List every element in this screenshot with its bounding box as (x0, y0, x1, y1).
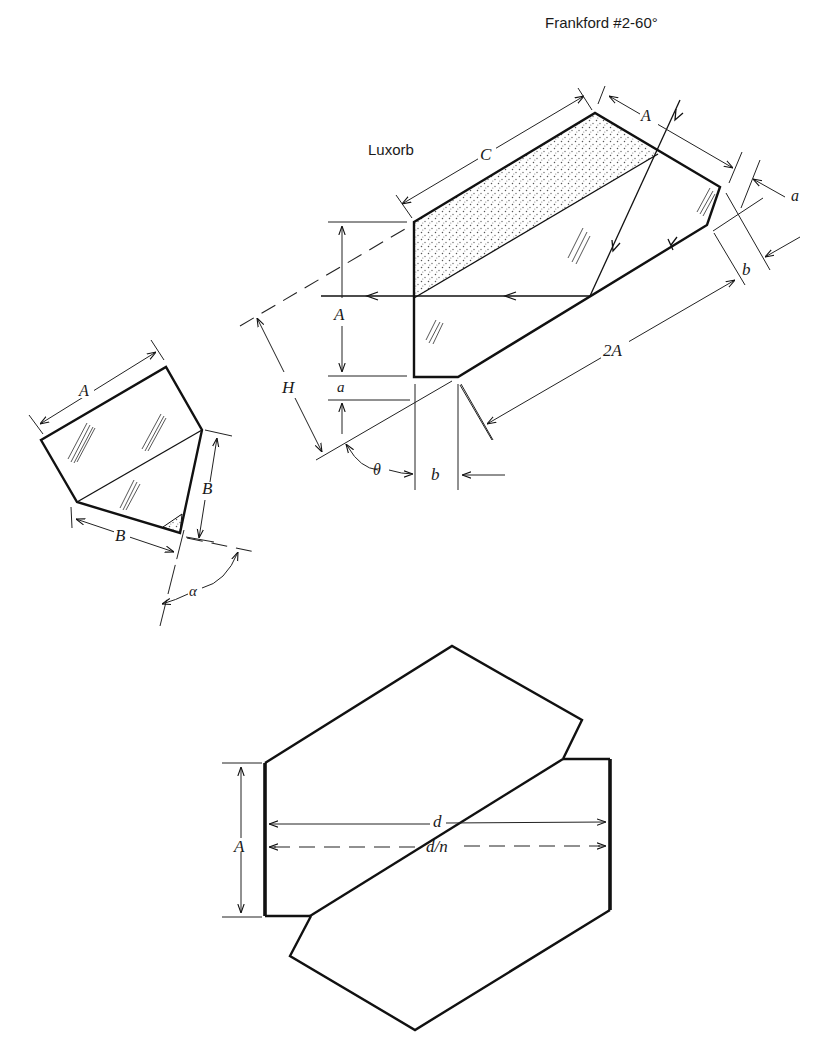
dim-A-pair: A (233, 837, 245, 856)
dim-a-left: a (337, 379, 345, 395)
absorbing-coating (414, 113, 658, 298)
dim-A-top: A (640, 107, 651, 124)
dim-d-over-n: d/n (426, 837, 448, 856)
left-prism-hatch (68, 414, 166, 510)
small-coating-triangle (163, 514, 182, 533)
dim-b-bottom: b (431, 465, 440, 484)
lower-prism-outline (290, 910, 610, 1030)
upper-prism-outline (265, 646, 582, 763)
dim-theta: θ (373, 461, 381, 478)
dim-a-right: a (791, 187, 799, 204)
left-prism: A B B α (29, 340, 260, 626)
offset-prism-pair: A d d/n (222, 646, 610, 1030)
dim-d: d (433, 812, 442, 831)
figure-title: Frankford #2-60° (545, 14, 658, 31)
luxorb-prism: Luxorb C A (240, 86, 800, 490)
dim-b-right: b (742, 260, 751, 279)
dim-B-bottom: B (115, 526, 126, 545)
left-prism-outline (41, 367, 202, 533)
dim-C: C (480, 145, 492, 164)
luxorb-label: Luxorb (368, 141, 414, 158)
dim-H: H (281, 378, 296, 397)
dim-B-right: B (202, 479, 213, 498)
dim-alpha: α (189, 583, 198, 599)
optical-prism-diagram: Frankford #2-60° Luxorb C (0, 0, 826, 1045)
dim-2A: 2A (603, 341, 623, 360)
dim-A-left: A (333, 305, 345, 324)
dim-A-left-prism: A (78, 382, 89, 399)
